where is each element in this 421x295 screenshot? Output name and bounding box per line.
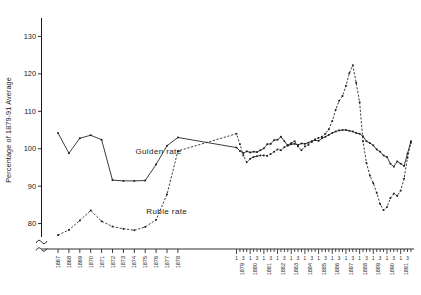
series-line-gulden-rate	[58, 130, 411, 181]
data-point-marker	[338, 100, 340, 102]
data-point-marker	[379, 203, 381, 205]
data-point-marker	[236, 147, 238, 149]
x-axis-year-label: 1870	[88, 256, 94, 268]
data-point-marker	[101, 139, 103, 141]
data-point-marker	[297, 146, 299, 148]
data-point-marker	[263, 155, 265, 157]
data-point-marker	[396, 195, 398, 197]
data-point-marker	[112, 226, 114, 228]
data-point-marker	[338, 130, 340, 132]
x-axis-year-label: 1875	[142, 256, 148, 268]
x-axis-quarter-label: 3	[365, 256, 368, 261]
x-axis-quarter-label: 1	[263, 256, 266, 261]
x-axis-quarter-label: 1	[290, 256, 293, 261]
x-axis-quarter-label: 1	[358, 256, 361, 261]
data-point-marker	[284, 140, 286, 142]
data-point-marker	[383, 155, 385, 157]
data-point-marker	[133, 180, 135, 182]
data-point-marker	[177, 137, 179, 139]
data-point-marker	[376, 192, 378, 194]
x-axis-year-label: 1871	[99, 256, 105, 268]
x-axis-year-label: 1884	[307, 263, 313, 275]
data-point-marker	[301, 143, 303, 145]
data-point-marker	[68, 152, 70, 154]
x-axis-quarter-label: 3	[256, 256, 259, 261]
data-point-marker	[342, 129, 344, 131]
data-point-marker	[383, 209, 385, 211]
data-point-marker	[335, 109, 337, 111]
data-point-marker	[349, 72, 351, 74]
x-axis-quarter-label: 3	[393, 256, 396, 261]
x-axis-quarter-label: 1	[331, 256, 334, 261]
x-axis-year-label: 1878	[175, 256, 181, 268]
data-point-marker	[366, 140, 368, 142]
x-axis-quarter-label: 3	[297, 256, 300, 261]
data-point-marker	[410, 140, 412, 142]
data-point-marker	[79, 137, 81, 139]
data-point-marker	[331, 132, 333, 134]
x-axis-year-label: 1891	[403, 263, 409, 275]
x-axis-quarter-label: 1	[249, 256, 252, 261]
x-axis-quarter-label: 3	[269, 256, 272, 261]
data-point-marker	[355, 82, 357, 84]
data-point-marker	[386, 156, 388, 158]
data-point-marker	[400, 190, 402, 192]
data-point-marker	[166, 145, 168, 147]
data-point-marker	[328, 128, 330, 130]
data-point-marker	[239, 150, 241, 152]
data-point-marker	[386, 206, 388, 208]
x-axis-year-label: 1881	[266, 263, 272, 275]
y-axis-tick-label: 100	[24, 144, 36, 153]
data-point-marker	[112, 179, 114, 181]
x-axis-year-label: 1889	[375, 263, 381, 275]
data-point-marker	[246, 150, 248, 152]
data-point-marker	[304, 143, 306, 145]
y-axis-tick-label: 80	[28, 219, 36, 228]
x-axis-year-label: 1888	[362, 263, 368, 275]
data-point-marker	[410, 142, 412, 144]
x-axis-quarter-label: 1	[372, 256, 375, 261]
data-point-marker	[304, 146, 306, 148]
data-point-marker	[144, 226, 146, 228]
data-point-marker	[335, 131, 337, 133]
data-point-marker	[270, 153, 272, 155]
data-point-marker	[301, 149, 303, 151]
x-axis-year-label: 1880	[252, 263, 258, 275]
data-point-marker	[144, 180, 146, 182]
data-point-marker	[362, 140, 364, 142]
data-point-marker	[349, 130, 351, 132]
data-point-marker	[266, 143, 268, 145]
data-point-marker	[90, 134, 92, 136]
data-point-marker	[390, 163, 392, 165]
data-point-marker	[342, 95, 344, 97]
x-axis-quarter-label: 3	[242, 256, 245, 261]
data-point-marker	[155, 219, 157, 221]
data-point-marker	[284, 146, 286, 148]
x-axis-year-label: 1890	[389, 263, 395, 275]
data-point-marker	[366, 162, 368, 164]
data-point-marker	[68, 229, 70, 231]
data-point-marker	[403, 165, 405, 167]
y-axis-tick-label: 120	[24, 69, 36, 78]
data-point-marker	[242, 155, 244, 157]
x-axis-quarter-label: 3	[283, 256, 286, 261]
data-point-marker	[359, 101, 361, 103]
data-point-marker	[101, 220, 103, 222]
data-point-marker	[287, 144, 289, 146]
x-axis-quarter-label: 3	[324, 256, 327, 261]
y-axis-break-symbol	[36, 248, 47, 252]
data-point-marker	[155, 164, 157, 166]
x-axis-quarter-label: 1	[304, 256, 307, 261]
x-axis-year-label: 1885	[321, 263, 327, 275]
x-axis-quarter-label: 1	[345, 256, 348, 261]
x-axis-quarter-label: 1	[235, 256, 238, 261]
data-point-marker	[318, 140, 320, 142]
data-point-marker	[256, 155, 258, 157]
data-point-marker	[239, 143, 241, 145]
data-point-marker	[352, 64, 354, 66]
x-axis-quarter-label: 3	[351, 256, 354, 261]
series-annotation-ruble-rate: Ruble rate	[146, 207, 187, 216]
data-point-marker	[253, 156, 255, 158]
data-point-marker	[369, 142, 371, 144]
data-point-marker	[290, 142, 292, 144]
